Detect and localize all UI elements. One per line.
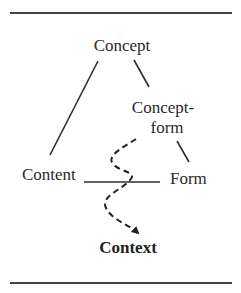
node-concept: Concept (94, 36, 151, 55)
node-context: Context (99, 238, 157, 257)
node-concept-form-line2: form (150, 118, 183, 137)
node-concept-form-line1: Concept- (132, 98, 195, 117)
edge-conceptform-form (177, 141, 189, 162)
node-content: Content (22, 165, 76, 184)
dashed-arrow-conceptform-context (105, 139, 138, 233)
edge-concept-content (50, 61, 98, 155)
edge-concept-conceptform (134, 60, 149, 87)
concept-diagram: Concept Concept- form Content Form Conte… (0, 0, 241, 293)
node-form: Form (170, 169, 207, 188)
